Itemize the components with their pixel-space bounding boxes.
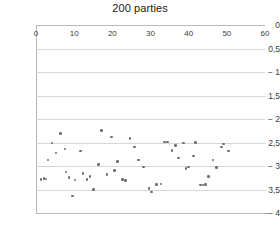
data-point: [212, 159, 215, 162]
data-point: [155, 183, 158, 186]
data-point: [142, 166, 145, 169]
gridline: [36, 25, 265, 26]
data-point: [220, 146, 223, 149]
data-point: [182, 142, 185, 145]
data-point: [160, 183, 163, 186]
gridline: [36, 213, 265, 214]
data-point: [89, 175, 92, 178]
gridline: [36, 96, 265, 97]
data-point: [166, 141, 169, 144]
data-point: [194, 141, 197, 144]
data-point: [124, 179, 127, 182]
data-point: [174, 144, 177, 147]
data-point: [92, 188, 95, 191]
data-point: [133, 146, 136, 149]
data-point: [55, 152, 58, 155]
data-point: [97, 163, 100, 166]
data-point: [79, 150, 82, 153]
data-point: [65, 171, 68, 174]
data-point: [207, 175, 210, 178]
gridline: [36, 72, 265, 73]
data-point: [110, 136, 113, 139]
data-point: [171, 149, 174, 152]
data-point: [86, 178, 89, 181]
data-point: [68, 176, 71, 179]
data-point: [227, 150, 230, 153]
data-point: [40, 178, 43, 181]
data-point: [64, 148, 67, 151]
plot-area: [36, 25, 265, 213]
data-point: [113, 169, 116, 172]
data-point: [148, 187, 151, 190]
data-point: [82, 172, 85, 175]
data-point: [137, 159, 140, 162]
data-point: [222, 143, 225, 146]
gridline: [36, 166, 265, 167]
data-point: [187, 166, 190, 169]
data-point: [59, 132, 62, 135]
data-point: [45, 178, 48, 181]
data-point: [106, 173, 109, 176]
scatter-chart: 200 parties 0− 0,5− 1− 1,5− 2− 2,5− 3− 3…: [0, 0, 280, 229]
gridline: [36, 49, 265, 50]
chart-title: 200 parties: [0, 2, 280, 14]
data-point: [71, 195, 74, 198]
data-point: [150, 191, 153, 194]
data-point: [177, 157, 180, 160]
data-point: [129, 137, 132, 140]
data-point: [215, 166, 218, 169]
data-point: [204, 183, 207, 186]
data-point: [100, 129, 103, 132]
data-point: [192, 155, 195, 158]
gridline: [36, 143, 265, 144]
data-point: [47, 159, 50, 162]
data-point: [74, 179, 77, 182]
data-point: [116, 160, 119, 163]
gridline: [36, 119, 265, 120]
